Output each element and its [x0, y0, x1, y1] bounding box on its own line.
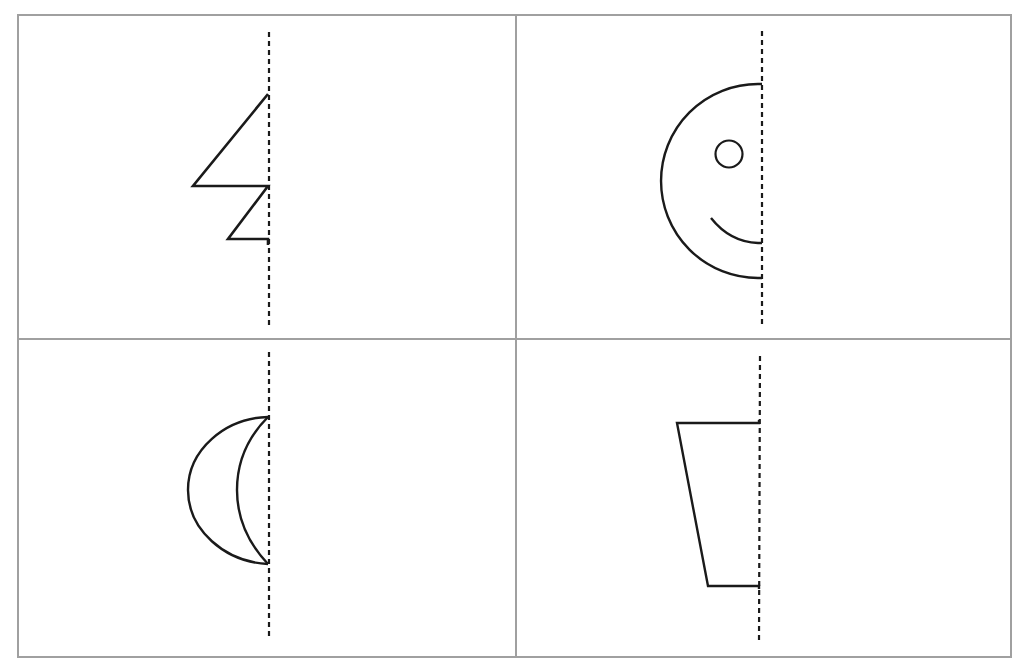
face-half-outline: [661, 84, 762, 278]
symmetry-worksheet: [0, 0, 1015, 661]
symmetry-axis: [759, 356, 760, 641]
grid-outer-border: [18, 15, 1011, 657]
panel-bottom-left: [188, 352, 269, 638]
crescent-outer-arc: [188, 417, 268, 564]
panel-top-right: [661, 31, 762, 324]
zigzag-half-shape: [193, 94, 268, 245]
eye: [716, 141, 743, 168]
worksheet-canvas: [0, 0, 1015, 661]
grid: [18, 15, 1011, 657]
panel-bottom-right: [677, 356, 760, 641]
trapezoid-half-shape: [677, 420, 759, 589]
half-smile: [711, 218, 762, 243]
panel-top-left: [193, 32, 269, 326]
crescent-inner-arc: [237, 417, 268, 564]
